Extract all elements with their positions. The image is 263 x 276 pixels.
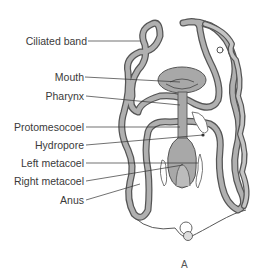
- label-left-metacoel: Left metacoel: [21, 157, 84, 169]
- label-ciliated-band: Ciliated band: [26, 35, 87, 47]
- right-metacoel-shape: [196, 154, 203, 188]
- label-pharynx: Pharynx: [45, 90, 84, 102]
- pharynx-shape: [178, 92, 187, 140]
- left-metacoel-shape: [160, 160, 166, 186]
- label-hydropore: Hydropore: [35, 139, 84, 151]
- label-protomesocoel: Protomesocoel: [14, 121, 84, 133]
- figure-caption: A: [181, 259, 188, 270]
- label-anus: Anus: [60, 194, 84, 206]
- label-mouth: Mouth: [55, 71, 84, 83]
- label-right-metacoel: Right metacoel: [14, 175, 84, 187]
